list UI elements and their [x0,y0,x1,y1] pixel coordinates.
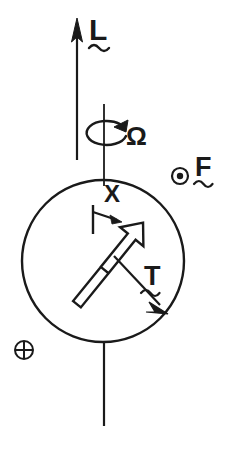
precession-rotation-arrow [87,120,128,145]
force-label: F [195,152,212,182]
circle-dot-icon-center [177,173,183,179]
torque-label-group: T [141,261,161,296]
angle-indicator [93,205,122,234]
diagram-canvas: L Ω F X [0,0,226,450]
force-out-of-page-symbol [172,168,188,184]
precession-label: Ω [126,121,147,151]
physics-diagram: L Ω F X [0,0,226,450]
spin-vector-arrow-outline [65,213,154,313]
torque-label: T [144,261,161,291]
angular-momentum-arrow [72,18,83,160]
angle-label: X [104,180,120,207]
angle-arrow-head [110,215,122,224]
into-page-symbol [15,341,33,359]
force-label-group: F [194,152,213,187]
angular-momentum-label-group: L [89,13,109,51]
spin-vector-arrow [65,213,154,313]
angular-momentum-label: L [89,13,107,46]
torque-arrow-head [146,302,168,314]
